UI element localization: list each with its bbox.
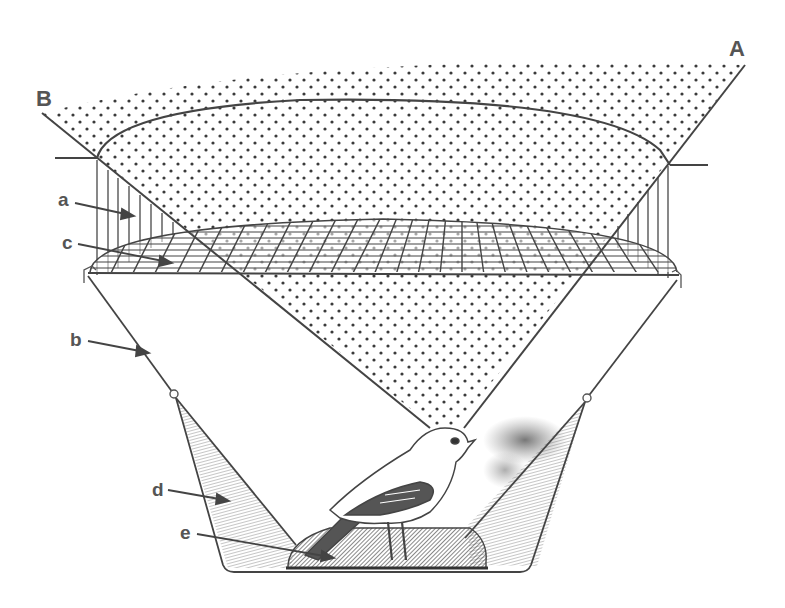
- funnel-cage-diagram: B A a c b d e: [0, 0, 785, 608]
- label-c-net: c: [62, 233, 73, 252]
- label-e-pad: e: [180, 523, 191, 542]
- diagram-canvas: [0, 0, 785, 608]
- label-B: B: [36, 88, 52, 110]
- label-a-cylinder-wall: a: [58, 190, 69, 209]
- funnel-ring-left: [170, 390, 178, 398]
- funnel-ring-right: [583, 394, 591, 402]
- label-d-inner-funnel: d: [152, 480, 164, 499]
- label-A: A: [729, 38, 745, 60]
- label-b-funnel: b: [70, 330, 82, 349]
